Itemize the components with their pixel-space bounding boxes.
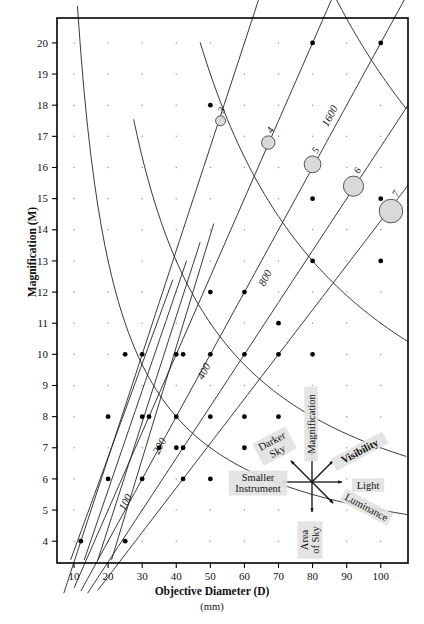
y-tick-label: 12 xyxy=(37,286,48,298)
y-tick-label: 4 xyxy=(43,535,49,547)
y-tick-label: 18 xyxy=(37,99,49,111)
light-grasp-label-200: 200 xyxy=(150,435,169,456)
x-axis-unit: (mm) xyxy=(0,601,424,612)
exit-pupil-disc-3 xyxy=(216,116,226,126)
exit-pupil-curve-3 xyxy=(64,0,262,593)
instrument-point xyxy=(208,414,213,419)
light-grasp-label-1600: 1600 xyxy=(319,103,340,128)
exit-pupil-curve-7 xyxy=(98,185,408,590)
x-tick-label: 30 xyxy=(137,570,149,582)
instrument-point xyxy=(242,414,247,419)
instrument-point xyxy=(208,477,213,482)
instrument-point xyxy=(208,352,213,357)
exit-pupil-label-6: 6 xyxy=(351,165,363,175)
instrument-point xyxy=(276,414,281,419)
compass-label-up-right: Visibility xyxy=(331,431,389,470)
instrument-point xyxy=(310,259,315,264)
instrument-point xyxy=(174,445,179,450)
compass-label-text: Luminance xyxy=(343,491,390,523)
x-tick-label: 100 xyxy=(372,570,389,582)
y-axis-title: Magnification (M) xyxy=(26,172,38,332)
x-axis-title: Objective Diameter (D) xyxy=(0,585,424,597)
compass-arrow-up-left xyxy=(291,461,312,482)
light-grasp-curve-100 xyxy=(77,6,408,515)
y-tick-label: 6 xyxy=(43,473,49,485)
instrument-point xyxy=(276,352,281,357)
compass-label-text: Magnification xyxy=(306,394,317,454)
instrument-point xyxy=(174,352,179,357)
exit-pupil-disc-4 xyxy=(262,136,275,149)
instrument-point xyxy=(181,352,186,357)
instrument-point xyxy=(140,477,145,482)
instrument-point xyxy=(123,352,128,357)
instrument-point xyxy=(140,352,145,357)
y-tick-label: 5 xyxy=(43,504,49,516)
light-grasp-curve-group xyxy=(77,0,408,515)
compass-label-text: Smaller xyxy=(242,472,275,483)
instrument-point xyxy=(174,414,179,419)
instrument-point xyxy=(276,321,281,326)
y-tick-label: 14 xyxy=(37,223,49,235)
x-tick-label: 80 xyxy=(307,570,319,582)
instrument-point xyxy=(123,539,128,544)
instrument-point xyxy=(242,445,247,450)
x-tick-label: 90 xyxy=(341,570,353,582)
instrument-point xyxy=(242,290,247,295)
exit-pupil-disc-6 xyxy=(343,176,363,196)
x-tick-label: 20 xyxy=(103,570,115,582)
instrument-point xyxy=(181,445,186,450)
x-tick-label: 10 xyxy=(69,570,81,582)
y-tick-label: 8 xyxy=(43,410,49,422)
compass-label-down: Areaof Sky xyxy=(298,521,323,559)
figure-root: 34567 1002004008001600 MagnificationVisi… xyxy=(0,0,424,624)
exit-pupil-curve-4 xyxy=(74,0,336,588)
compass-label-text: Light xyxy=(357,480,380,491)
light-grasp-label-400: 400 xyxy=(194,361,213,382)
compass-arrow-up-right xyxy=(312,461,333,482)
compass-label-text: of Sky xyxy=(310,525,321,553)
compass-label-up: Magnification xyxy=(304,387,318,461)
light-grasp-curve-400 xyxy=(200,42,408,341)
x-tick-label: 40 xyxy=(171,570,183,582)
exit-pupil-disc-group: 34567 xyxy=(215,105,403,223)
instrument-point xyxy=(181,477,186,482)
instrument-point xyxy=(78,539,83,544)
light-grasp-label-800: 800 xyxy=(256,267,275,288)
compass-label-up-left: DarkerSky xyxy=(252,426,297,466)
y-tick-label: 15 xyxy=(37,192,49,204)
y-tick-label: 11 xyxy=(37,317,48,329)
exit-pupil-label-7: 7 xyxy=(390,188,403,198)
x-tick-label: 50 xyxy=(205,570,217,582)
compass-label-down-right: Luminance xyxy=(340,489,393,526)
y-tick-label: 19 xyxy=(37,68,49,80)
compass-label-text: Instrument xyxy=(235,483,281,494)
light-grasp-curve-800 xyxy=(318,0,407,109)
trade-off-compass-legend: MagnificationVisibilityLightLuminanceAre… xyxy=(229,387,393,559)
x-tick-label: 60 xyxy=(239,570,251,582)
y-tick-label: 13 xyxy=(37,255,49,267)
instrument-point xyxy=(310,41,315,46)
instrument-point xyxy=(310,196,315,201)
instrument-point xyxy=(147,414,152,419)
instrument-point xyxy=(140,414,145,419)
exit-pupil-disc-7 xyxy=(379,199,403,223)
instrument-point xyxy=(106,477,111,482)
instrument-point xyxy=(378,196,383,201)
y-tick-label: 16 xyxy=(37,161,49,173)
instrument-point xyxy=(378,41,383,46)
y-tick-label: 17 xyxy=(37,130,49,142)
instrument-point xyxy=(378,259,383,264)
exit-pupil-label-4: 4 xyxy=(264,125,276,135)
exit-pupil-label-5: 5 xyxy=(309,145,321,155)
instrument-point xyxy=(208,103,213,108)
y-tick-label: 7 xyxy=(43,441,49,453)
compass-arrow-down-right xyxy=(312,482,333,503)
compass-label-right: Light xyxy=(352,478,384,492)
exit-pupil-disc-5 xyxy=(304,156,321,173)
instrument-point xyxy=(242,352,247,357)
instrument-point xyxy=(310,352,315,357)
telescope-performance-chart: 34567 1002004008001600 MagnificationVisi… xyxy=(0,0,424,624)
compass-label-text: Area xyxy=(299,529,310,550)
compass-label-left: SmallerInstrument xyxy=(229,471,287,496)
instrument-point xyxy=(106,414,111,419)
